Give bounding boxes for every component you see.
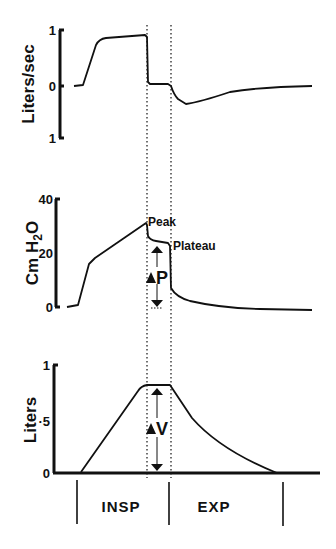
flow-tick-top: 1 bbox=[49, 23, 56, 38]
expiration-label: EXP bbox=[197, 498, 230, 515]
volume-tick-1: 1 bbox=[43, 358, 50, 373]
delta-v-label: V bbox=[156, 419, 168, 439]
volume-axis-label: Liters bbox=[21, 397, 40, 443]
plateau-label: Plateau bbox=[173, 239, 216, 253]
pressure-axis bbox=[55, 199, 60, 307]
volume-panel: Liters 1 ·5 0 V bbox=[21, 358, 320, 481]
delta-p-label: P bbox=[156, 268, 168, 288]
pressure-tick-20: 20 bbox=[39, 246, 53, 261]
flow-panel: Liters/sec 1 0 1 bbox=[19, 23, 312, 146]
flow-axis-label: Liters/sec bbox=[19, 44, 38, 123]
volume-tick-half: ·5 bbox=[38, 414, 50, 429]
flow-axis bbox=[59, 30, 64, 138]
inspiration-label: INSP bbox=[101, 498, 140, 515]
delta-v-triangle-icon bbox=[146, 423, 156, 434]
flow-curve bbox=[74, 35, 312, 104]
volume-axis bbox=[53, 365, 320, 473]
volume-curve bbox=[81, 385, 277, 473]
pressure-panel: Cm H2O 40 20 0 Peak Plateau P bbox=[23, 192, 312, 315]
flow-tick-zero: 0 bbox=[49, 79, 56, 94]
peak-label: Peak bbox=[148, 215, 176, 229]
volume-tick-0: 0 bbox=[43, 466, 50, 481]
pressure-tick-0: 0 bbox=[46, 300, 53, 315]
respiratory-mechanics-diagram: Liters/sec 1 0 1 Cm H2O 40 20 0 Peak Pla… bbox=[0, 0, 336, 549]
pressure-tick-40: 40 bbox=[39, 192, 53, 207]
flow-tick-bottom: 1 bbox=[49, 131, 56, 146]
pressure-curve bbox=[67, 223, 312, 310]
